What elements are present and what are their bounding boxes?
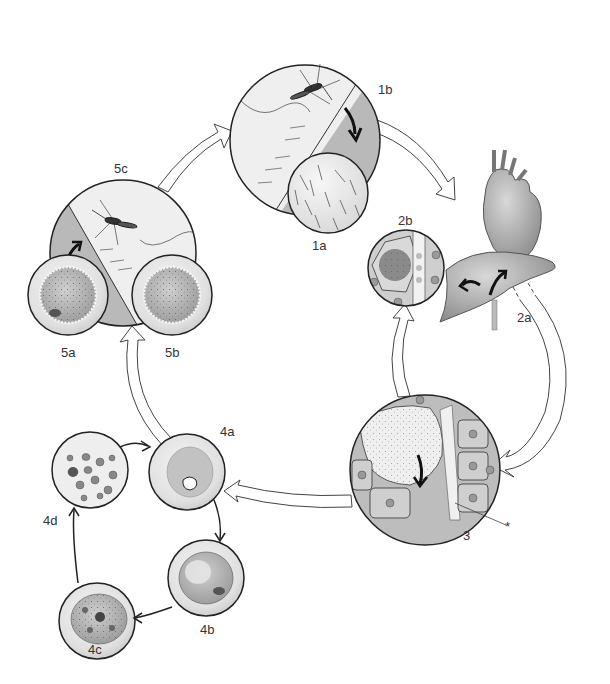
life-cycle-diagram: 1b 1a 2b 2a 3 * 4a 4b 4c 4d 5a 5b 5c (0, 0, 610, 684)
arrow-3-to-4a (224, 480, 352, 508)
label-5c: 5c (114, 161, 128, 176)
stage-4b-trophozoite (168, 540, 244, 616)
stage-2a-heart-liver (440, 150, 555, 330)
arrow-5c-to-1b (158, 124, 232, 192)
label-asterisk: * (505, 519, 510, 534)
stage-4a-ring (149, 434, 225, 510)
label-2b: 2b (398, 213, 412, 228)
label-5b: 5b (165, 345, 179, 360)
label-4d: 4d (43, 513, 57, 528)
label-1b: 1b (378, 82, 392, 97)
label-4b: 4b (200, 622, 214, 637)
stage-5a-gametocyte (28, 255, 108, 335)
label-2a: 2a (517, 310, 531, 325)
stage-4d-merozoite-release (52, 432, 128, 508)
arrow-4a-to-5c (120, 326, 171, 446)
label-4a: 4a (220, 424, 234, 439)
label-5a: 5a (61, 345, 75, 360)
stage-2b-liver-tissue (368, 230, 444, 310)
arrow-1b-to-2a (373, 120, 455, 200)
stage-5b-gametocyte (132, 255, 212, 335)
arrow-3-to-2b (392, 304, 414, 397)
label-3: 3 (463, 528, 470, 543)
label-1a: 1a (312, 238, 326, 253)
stage-3-liver-schizont (350, 395, 506, 545)
stage-1a-skin-closeup (288, 153, 368, 233)
label-4c: 4c (88, 642, 102, 657)
